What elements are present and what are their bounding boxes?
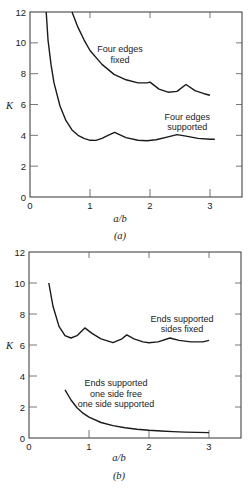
x-tick-label: 0 bbox=[26, 441, 31, 452]
panel-caption: (b) bbox=[113, 470, 126, 482]
figure: 0246810120123Ka/b(a)Four edgesfixedFour … bbox=[0, 0, 250, 490]
x-tick-label: 1 bbox=[86, 441, 91, 452]
chart-panel-b: 0246810120123Ka/b(b)Ends supportedsides … bbox=[5, 247, 241, 483]
x-tick-label: 1 bbox=[87, 200, 92, 211]
panel-caption: (a) bbox=[114, 230, 127, 242]
x-axis-label: a/b bbox=[113, 213, 126, 224]
y-tick-label: 2 bbox=[21, 161, 26, 172]
y-tick-label: 8 bbox=[20, 309, 25, 320]
series-annotation: Ends supportedone side freeone side supp… bbox=[78, 378, 155, 409]
y-tick-label: 4 bbox=[21, 130, 26, 141]
y-tick-label: 8 bbox=[21, 68, 26, 79]
y-tick-label: 0 bbox=[21, 192, 26, 203]
x-tick-label: 2 bbox=[146, 441, 151, 452]
series-annotation: Ends supportedsides fixed bbox=[150, 314, 213, 335]
x-tick-label: 2 bbox=[147, 200, 152, 211]
x-tick-label: 3 bbox=[206, 441, 211, 452]
plot-frame bbox=[29, 252, 241, 438]
x-tick-label: 0 bbox=[27, 200, 32, 211]
y-tick-label: 0 bbox=[20, 433, 25, 444]
x-axis-label: a/b bbox=[112, 452, 125, 463]
y-axis-label: K bbox=[5, 340, 14, 351]
y-axis-label: K bbox=[5, 100, 14, 111]
y-tick-label: 12 bbox=[15, 7, 26, 18]
y-tick-label: 10 bbox=[15, 37, 26, 48]
series-annotation: Four edgesfixed bbox=[97, 44, 143, 64]
y-tick-label: 2 bbox=[20, 402, 25, 413]
y-tick-label: 10 bbox=[14, 278, 25, 289]
y-tick-label: 4 bbox=[20, 371, 25, 382]
plot-frame bbox=[30, 12, 242, 197]
y-tick-label: 6 bbox=[20, 340, 25, 351]
y-tick-label: 6 bbox=[21, 99, 26, 110]
chart-panel-a: 0246810120123Ka/b(a)Four edgesfixedFour … bbox=[5, 7, 242, 243]
series-annotation: Four edgessupported bbox=[164, 112, 210, 132]
x-tick-label: 3 bbox=[207, 200, 212, 211]
y-tick-label: 12 bbox=[14, 247, 25, 258]
